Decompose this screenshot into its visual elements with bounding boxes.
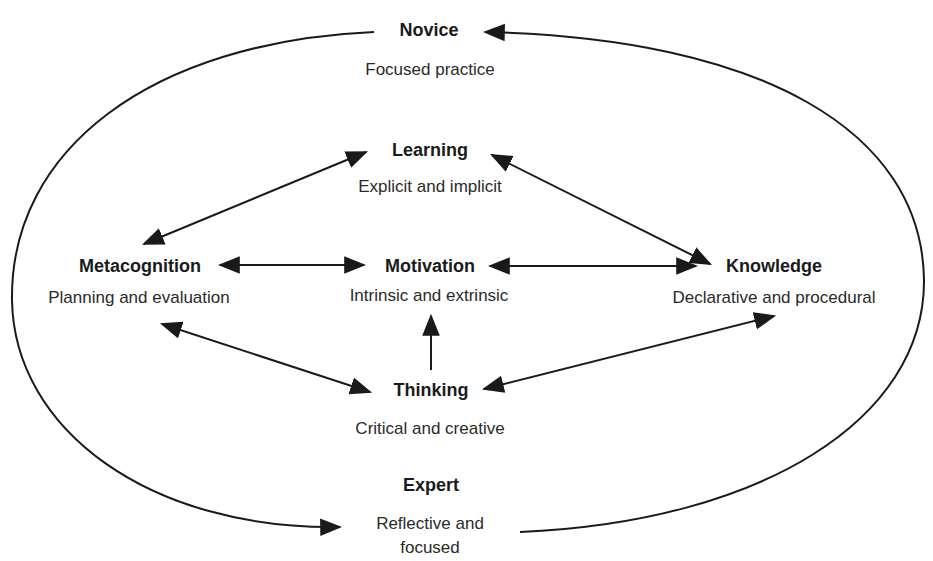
edge-novice-to-expert [12, 32, 374, 527]
metacognition-subtitle: Planning and evaluation [48, 288, 229, 308]
expert-subtitle-line2: focused [400, 536, 460, 560]
learning-title: Learning [392, 140, 468, 161]
novice-subtitle: Focused practice [365, 60, 494, 80]
knowledge-subtitle: Declarative and procedural [672, 288, 875, 308]
edge-knowledge-thinking [484, 316, 774, 389]
motivation-subtitle: Intrinsic and extrinsic [350, 286, 509, 306]
novice-title: Novice [399, 20, 458, 41]
edge-learning-knowledge [492, 155, 710, 264]
thinking-title: Thinking [394, 380, 469, 401]
thinking-subtitle: Critical and creative [355, 419, 504, 439]
expert-subtitle-line1: Reflective and [376, 512, 484, 536]
edge-metacognition-thinking [162, 324, 370, 392]
knowledge-title: Knowledge [726, 256, 822, 277]
edge-learning-metacognition [144, 152, 366, 244]
motivation-title: Motivation [385, 256, 475, 277]
learning-subtitle: Explicit and implicit [358, 177, 502, 197]
edge-expert-to-novice [485, 32, 924, 532]
metacognition-title: Metacognition [79, 256, 201, 277]
expert-title: Expert [403, 475, 459, 496]
diagram-edges [0, 0, 933, 561]
